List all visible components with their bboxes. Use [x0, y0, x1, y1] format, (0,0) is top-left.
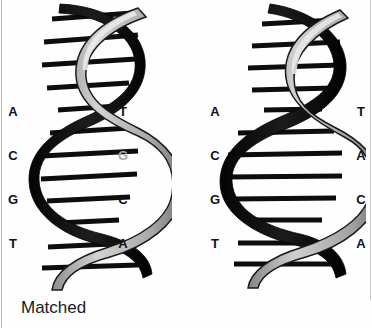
panel-matched: A C G T T G C A Matched [0, 0, 186, 328]
caption-matched: Matched [21, 298, 86, 318]
base-letter: A [354, 149, 368, 164]
base-letter: T [6, 237, 20, 252]
base-letter: T [116, 105, 130, 120]
dna-matching-figure: A C G T T G C A Matched [0, 0, 372, 328]
base-letter: A [354, 237, 368, 252]
bases-complement-right-mismatched: T A C A [354, 76, 368, 280]
dna-double-helix-matched [14, 2, 172, 292]
base-letter: T [208, 237, 222, 252]
base-letter: G [208, 193, 222, 208]
base-letter: C [6, 149, 20, 164]
base-letter: C [354, 193, 368, 208]
base-letter: A [208, 105, 222, 120]
base-letter: A [6, 105, 20, 120]
base-letter-dim: G [116, 149, 130, 164]
dna-double-helix-mismatched [208, 0, 366, 290]
base-letter: C [116, 193, 130, 208]
base-letter: A [116, 237, 130, 252]
bases-template-left-matched: A C G T [6, 76, 20, 280]
bases-template-left-mismatched: A C G T [208, 76, 222, 280]
panel-mismatched: A C G T T A C A Mismatched [186, 0, 372, 328]
bases-complement-right-matched: T G C A [116, 76, 130, 280]
base-letter: G [6, 193, 20, 208]
base-letter: C [208, 149, 222, 164]
backbone-front-light [248, 10, 366, 288]
base-letter: T [354, 105, 368, 120]
